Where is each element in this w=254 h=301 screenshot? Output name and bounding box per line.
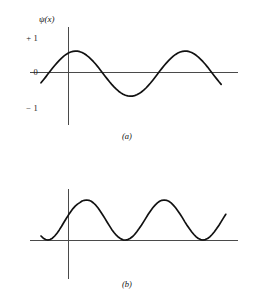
panel-a-caption: (a) — [0, 131, 254, 141]
panel-a-tick-zero: 0 — [8, 67, 38, 77]
panel-a-axis-title: ψ(x) — [39, 14, 55, 24]
panel-a-tick-minus-one: − 1 — [8, 103, 38, 113]
panel-a-tick-plus-one: + 1 — [8, 33, 38, 43]
panel-b-caption: (b) — [0, 279, 254, 289]
figure-container: ψ(x) + 1 0 − 1 (a) P(x) + 1 0 A (b) — [0, 0, 254, 301]
panel-b-probability-curve — [41, 200, 226, 240]
